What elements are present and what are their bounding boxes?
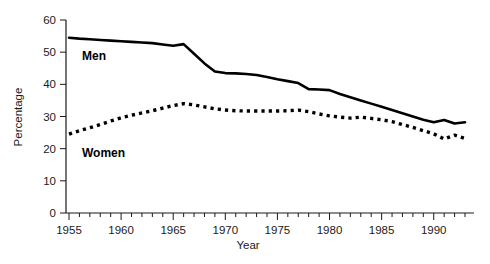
x-tick-label: 1980 <box>317 224 343 236</box>
y-axis-ticks <box>60 20 66 213</box>
x-tick-label: 1990 <box>421 224 447 236</box>
series-label-women: Women <box>82 146 125 160</box>
x-tick-label: 1955 <box>56 224 82 236</box>
series-line-men <box>69 38 465 124</box>
y-axis-tick-labels: 0102030405060 <box>43 14 56 219</box>
x-axis-minor-ticks <box>69 213 465 220</box>
x-tick-label: 1975 <box>265 224 291 236</box>
line-chart: 0102030405060 19551960196519701975198019… <box>0 0 490 264</box>
y-axis-title: Percentage <box>12 88 24 147</box>
x-axis-tick-labels: 19551960196519701975198019851990 <box>56 224 446 236</box>
x-tick-label: 1960 <box>108 224 134 236</box>
series-line-women <box>69 104 465 139</box>
y-tick-label: 10 <box>43 175 56 187</box>
x-axis-title: Year <box>236 239 259 251</box>
y-tick-label: 20 <box>43 143 56 155</box>
y-tick-label: 40 <box>43 78 56 90</box>
x-tick-label: 1965 <box>160 224 186 236</box>
y-tick-label: 0 <box>50 207 56 219</box>
x-tick-label: 1985 <box>369 224 395 236</box>
x-tick-label: 1970 <box>213 224 239 236</box>
y-tick-label: 60 <box>43 14 56 26</box>
y-tick-label: 30 <box>43 111 56 123</box>
chart-canvas: 0102030405060 19551960196519701975198019… <box>0 0 490 264</box>
y-tick-label: 50 <box>43 46 56 58</box>
series-label-men: Men <box>82 49 106 63</box>
